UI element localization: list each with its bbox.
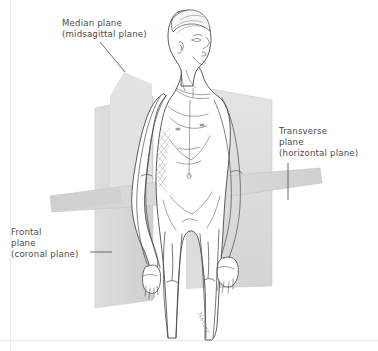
label-transverse-line2: plane — [279, 137, 358, 148]
label-median-plane: Median plane (midsagittal plane) — [62, 18, 147, 40]
label-frontal-line2: plane — [11, 238, 79, 249]
anatomical-planes-figure: Median plane (midsagittal plane) Transve… — [0, 0, 378, 351]
label-median-line2: (midsagittal plane) — [62, 29, 147, 40]
label-transverse-plane: Transverse plane (horizontal plane) — [279, 126, 358, 160]
leader-median — [100, 42, 125, 72]
label-frontal-plane: Frontal plane (coronal plane) — [11, 227, 79, 261]
label-frontal-line3: (coronal plane) — [11, 249, 79, 260]
label-transverse-line1: Transverse — [279, 126, 358, 137]
label-frontal-line1: Frontal — [11, 227, 79, 238]
label-transverse-line3: (horizontal plane) — [279, 148, 358, 159]
label-median-line1: Median plane — [62, 18, 147, 29]
figure-canvas — [0, 0, 378, 351]
